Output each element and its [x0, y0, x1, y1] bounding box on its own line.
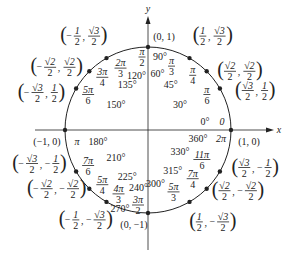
coord-label-300-minus-1: −	[209, 216, 215, 227]
point-60	[187, 56, 191, 60]
radian-label-150-numerator: 5π	[83, 84, 94, 95]
coord-label-135-part-1: √22	[64, 56, 76, 78]
radian-label-270-denominator: 2	[136, 205, 141, 216]
point-150	[74, 86, 78, 90]
coord-label-30-rparen: )	[269, 78, 276, 101]
coord-label-315-part-0-numerator: √2	[219, 180, 230, 191]
coord-label-45-part-0-numerator: √2	[225, 60, 236, 71]
coord-label-330-comma: ,	[252, 163, 255, 174]
point-90	[146, 45, 150, 49]
coord-label-120-part-1: √32	[88, 25, 100, 47]
point-225	[87, 186, 91, 190]
coord-label-330-minus-1: −	[257, 162, 263, 173]
coord-label-240-minus-1: −	[86, 214, 92, 225]
point-30	[218, 86, 222, 90]
coord-label-0: (1, 0)	[238, 136, 260, 148]
coord-label-240-part-0: 12	[72, 209, 79, 231]
coord-label-60-part-1-numerator: √3	[214, 25, 225, 36]
radian-label-90-numerator: π	[139, 46, 145, 57]
coord-label-210-part-0-numerator: √3	[27, 153, 38, 164]
coord-label-330-part-0-numerator: √3	[239, 157, 250, 168]
coord-label-210: (−√32,−12)	[12, 151, 66, 175]
coord-label-60-lparen: (	[193, 23, 200, 46]
coord-label-150-part-1-denominator: 2	[52, 93, 57, 104]
coord-label-210-part-1-denominator: 2	[53, 164, 58, 175]
radian-label-60-denominator: 3	[169, 66, 174, 77]
coord-label-60-part-0: 12	[199, 25, 206, 47]
coord-label-135: (−√22,√22)	[30, 54, 82, 78]
radian-label-315-numerator: 7π	[188, 168, 199, 179]
radian-label-225-denominator: 4	[100, 185, 105, 196]
radian-label-330-denominator: 6	[199, 160, 204, 171]
coord-label-240-part-1-numerator: √3	[94, 209, 105, 220]
coord-label-120-part-0: 12	[74, 25, 81, 47]
radian-label-300-numerator: 5π	[168, 181, 179, 192]
coord-label-315: (√22,−√22)	[212, 178, 264, 202]
coord-label-150-part-1-numerator: 1	[52, 82, 57, 93]
radian-label-240: 4π3	[113, 183, 125, 205]
radian-label-45-denominator: 4	[190, 75, 195, 86]
coord-label-300-part-0-denominator: 2	[197, 222, 202, 233]
coord-label-210-part-0: √32	[26, 153, 38, 175]
coord-label-135-part-0-denominator: 2	[48, 67, 53, 78]
coord-label-300-part-1: √32	[217, 211, 229, 233]
radian-label-135: 3π4	[96, 66, 108, 88]
coord-label-225-minus-0: −	[33, 183, 39, 194]
coord-label-315-lparen: (	[212, 178, 219, 201]
coord-label-225: (−√22,−√22)	[27, 176, 86, 200]
coord-label-300-comma: ,	[204, 217, 207, 228]
coord-label-60-part-0-numerator: 1	[200, 25, 205, 36]
coord-label-150-part-0-denominator: 2	[35, 93, 40, 104]
coord-label-30-part-1-denominator: 2	[262, 91, 267, 102]
coord-label-135-rparen: )	[76, 54, 83, 77]
radian-label-135-denominator: 4	[100, 77, 105, 88]
coord-label-210-minus-1: −	[45, 158, 51, 169]
radian-label-30-denominator: 6	[204, 95, 209, 106]
coord-label-30-lparen: (	[235, 78, 242, 101]
coord-label-225-comma: ,	[54, 184, 57, 195]
radian-label-330-numerator: 11π	[195, 149, 210, 160]
coord-label-120-part-1-denominator: 2	[92, 36, 97, 47]
coord-label-240-part-0-denominator: 2	[73, 220, 78, 231]
point-270	[146, 211, 150, 215]
radian-label-120-denominator: 3	[118, 68, 123, 79]
x-axis-arrow-icon	[266, 128, 274, 133]
radian-label-315-denominator: 4	[190, 179, 195, 190]
coord-label-30-part-1: 12	[261, 80, 268, 102]
coord-label-30-part-0-denominator: 2	[245, 91, 250, 102]
coord-label-315-part-0-denominator: 2	[222, 191, 227, 202]
coord-label-210-minus-0: −	[18, 158, 24, 169]
radian-label-45-numerator: π	[190, 64, 196, 75]
degree-label-315: 315°	[163, 165, 182, 176]
coord-label-315-rparen: )	[258, 178, 265, 201]
degree-label-90: 90°	[153, 51, 167, 62]
coord-label-60-part-1: √32	[214, 25, 226, 47]
labels: 00°(1, 0)2π360°π630°(√32,12)π445°(√22,√2…	[12, 23, 279, 233]
coord-label-330-part-1-numerator: 1	[266, 157, 271, 168]
coord-label-315-part-1: √22	[245, 180, 257, 202]
degree-label-270: 270°	[111, 203, 130, 214]
coord-label-135-part-0: √22	[44, 56, 56, 78]
coord-label-315-part-1-numerator: √2	[246, 180, 257, 191]
coord-label-210-rparen: )	[60, 151, 67, 174]
coord-label-120-part-1-numerator: √3	[89, 25, 100, 36]
radian-label-180: π	[74, 136, 80, 147]
radian-label-210: 7π6	[82, 155, 94, 177]
coord-label-210-part-1-numerator: 1	[53, 153, 58, 164]
coord-label-330-lparen: (	[232, 155, 239, 178]
coord-label-150-part-1: 12	[51, 82, 58, 104]
coord-label-120-comma: ,	[82, 31, 85, 42]
coord-label-225-part-0-numerator: √2	[41, 178, 52, 189]
coord-label-225-minus-1: −	[59, 183, 65, 194]
degree-label-0: 0°	[201, 116, 210, 127]
coord-label-60-part-0-denominator: 2	[200, 36, 205, 47]
radian-label-120-numerator: 2π	[115, 57, 126, 68]
radian-label-0-text: 0	[220, 116, 225, 127]
coord-label-330-rparen: )	[272, 155, 279, 178]
coord-label-225-rparen: )	[80, 176, 87, 199]
coord-label-45-rparen: )	[256, 58, 263, 81]
radian-label-120: 2π3	[115, 57, 127, 79]
radian-label-225: 5π4	[96, 174, 108, 196]
coord-label-90: (0, 1)	[153, 31, 175, 43]
coord-label-30-part-0: √32	[242, 80, 254, 102]
